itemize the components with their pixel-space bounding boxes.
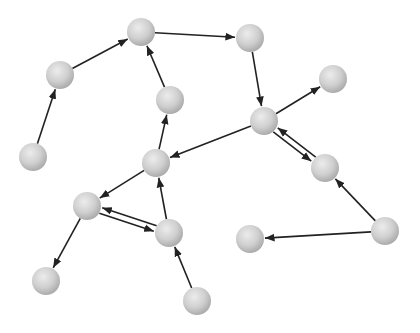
graph-node-K bbox=[155, 219, 183, 247]
edge-G-to-H bbox=[276, 87, 320, 114]
graph-node-I bbox=[311, 154, 339, 182]
edge-K-to-E bbox=[159, 178, 167, 219]
edge-N-to-O bbox=[265, 232, 371, 238]
graph-node-J bbox=[73, 192, 101, 220]
graph-node-L bbox=[32, 267, 60, 295]
graph-node-M bbox=[183, 287, 211, 315]
edge-D-to-C bbox=[147, 46, 165, 87]
graph-node-F bbox=[236, 24, 264, 52]
edge-E-to-D bbox=[159, 115, 167, 150]
graph-node-B bbox=[46, 61, 74, 89]
graph-node-C bbox=[127, 18, 155, 46]
edge-J-to-L bbox=[53, 218, 80, 268]
edge-M-to-K bbox=[175, 247, 192, 288]
graph-node-G bbox=[250, 107, 278, 135]
edge-A-to-B bbox=[37, 89, 55, 143]
graph-node-E bbox=[142, 149, 170, 177]
graph-node-D bbox=[156, 86, 184, 114]
edge-G-to-I bbox=[273, 132, 311, 161]
graph-node-A bbox=[19, 143, 47, 171]
graph-canvas bbox=[0, 0, 420, 333]
node-layer bbox=[19, 18, 399, 315]
edge-B-to-C bbox=[72, 39, 127, 68]
edge-I-to-G bbox=[278, 128, 316, 157]
edge-E-to-J bbox=[100, 170, 144, 198]
graph-node-H bbox=[319, 65, 347, 93]
edge-N-to-I bbox=[335, 179, 375, 221]
graph-node-N bbox=[371, 217, 399, 245]
graph-node-O bbox=[236, 225, 264, 253]
edge-F-to-G bbox=[252, 52, 261, 106]
edge-C-to-F bbox=[155, 33, 235, 37]
edge-G-to-E bbox=[170, 126, 251, 157]
